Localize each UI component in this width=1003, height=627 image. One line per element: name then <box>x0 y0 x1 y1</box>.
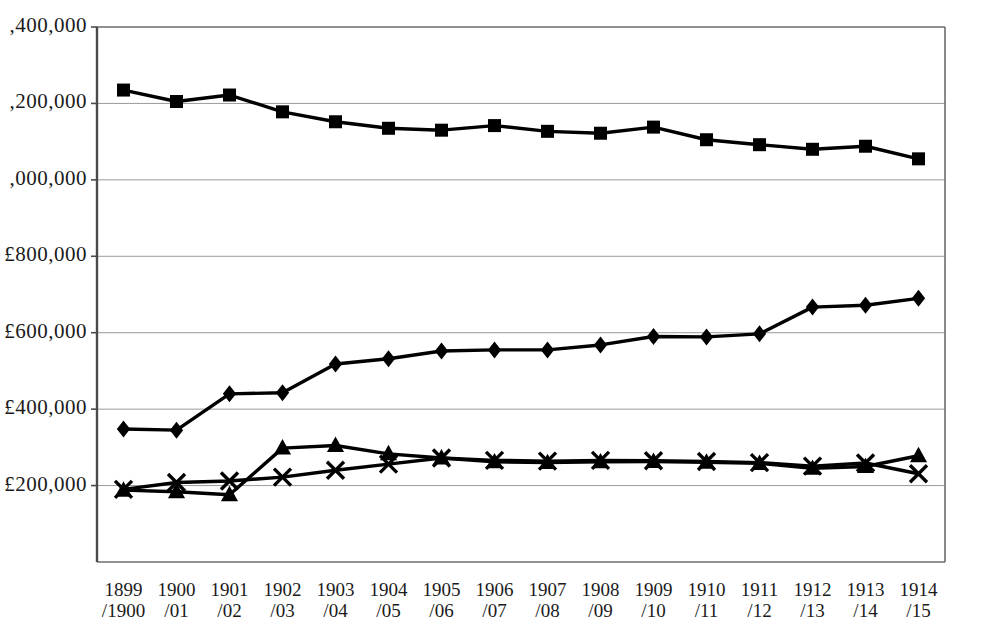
marker-square <box>541 125 554 138</box>
marker-square <box>435 124 448 137</box>
marker-square <box>488 119 501 132</box>
marker-square <box>912 152 925 165</box>
y-axis-tick-label: ,200,000 <box>10 89 88 114</box>
marker-square <box>859 140 872 153</box>
y-axis-tick-label: £600,000 <box>4 319 87 344</box>
x-axis-tick-label: 1914/15 <box>887 580 951 621</box>
marker-square <box>753 138 766 151</box>
marker-square <box>329 115 342 128</box>
marker-square <box>700 133 713 146</box>
chart-container: ,400,000,200,000,000,000£800,000£600,000… <box>0 0 1003 627</box>
y-axis-tick-label: ,000,000 <box>10 166 88 191</box>
marker-square <box>276 105 289 118</box>
marker-square <box>806 143 819 156</box>
line-chart <box>0 0 1003 627</box>
marker-square <box>594 127 607 140</box>
marker-square <box>170 95 183 108</box>
marker-square <box>117 84 130 97</box>
y-axis-tick-label: ,400,000 <box>10 13 88 38</box>
y-axis-tick-label: £400,000 <box>4 395 87 420</box>
marker-square <box>223 89 236 102</box>
y-axis-tick-label: £800,000 <box>4 242 87 267</box>
x-tick-line-1: 1914 <box>887 580 951 601</box>
marker-square <box>647 121 660 134</box>
marker-square <box>382 122 395 135</box>
x-tick-line-2: /15 <box>887 601 951 622</box>
y-axis-tick-label: £200,000 <box>4 472 87 497</box>
